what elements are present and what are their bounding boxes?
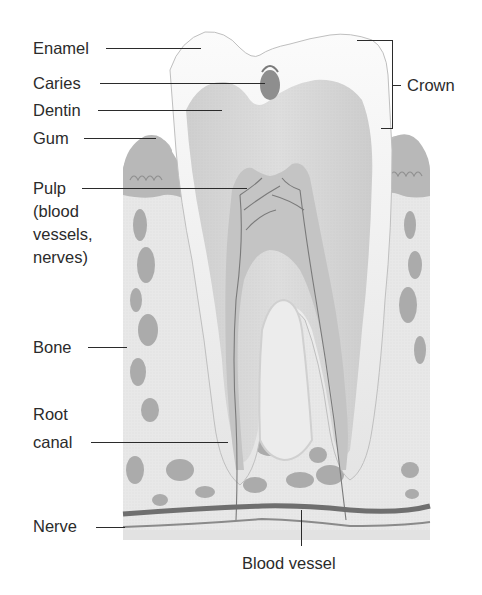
label-dentin: Dentin	[33, 98, 81, 122]
label-pulp-line2: (blood	[33, 199, 79, 223]
leader-blood-vessel	[301, 510, 302, 546]
leader-nerve	[96, 527, 125, 528]
label-pulp-line4: nerves)	[33, 245, 88, 269]
leader-root-canal	[91, 442, 228, 443]
label-enamel: Enamel	[33, 36, 89, 60]
leader-pulp	[82, 188, 247, 189]
leader-gum	[84, 138, 156, 139]
label-pulp-line3: vessels,	[33, 222, 93, 246]
crown-bracket-top	[357, 40, 393, 41]
leader-bone	[88, 347, 127, 348]
leader-dentin	[98, 110, 222, 111]
label-gum: Gum	[33, 126, 69, 150]
leader-caries	[100, 83, 265, 84]
leader-enamel	[106, 48, 201, 49]
label-blood-vessel: Blood vessel	[242, 551, 336, 575]
label-canal: canal	[33, 430, 72, 454]
label-crown: Crown	[407, 73, 455, 97]
label-bone: Bone	[33, 335, 72, 359]
crown-bracket-bottom	[381, 128, 393, 129]
label-pulp: Pulp	[33, 176, 66, 200]
crown-bracket-tick	[393, 85, 401, 86]
label-root: Root	[33, 402, 68, 426]
label-caries: Caries	[33, 71, 81, 95]
label-nerve: Nerve	[33, 514, 77, 538]
